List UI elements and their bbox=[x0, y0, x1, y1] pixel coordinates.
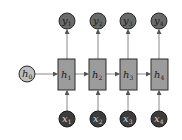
vertical-arrows bbox=[67, 30, 159, 111]
hidden-node-2: h2 bbox=[89, 59, 106, 90]
hidden-node-4: h4 bbox=[151, 59, 168, 90]
output-node-3: y3 bbox=[120, 13, 136, 29]
output-node-4: y4 bbox=[151, 13, 167, 29]
input-node-3: x3 bbox=[120, 111, 136, 127]
initial-state-node: h0 bbox=[19, 66, 35, 82]
input-node-1: x1 bbox=[59, 111, 75, 127]
output-node-2: y2 bbox=[90, 13, 106, 29]
output-node-1: y1 bbox=[59, 13, 75, 29]
rnn-diagram: h0 h1 h2 h3 h4 y1 y2 y3 y4 x1 x2 bbox=[0, 0, 182, 140]
input-node-4: x4 bbox=[151, 111, 167, 127]
input-node-2: x2 bbox=[90, 111, 106, 127]
hidden-node-3: h3 bbox=[120, 59, 137, 90]
hidden-node-1: h1 bbox=[58, 59, 75, 90]
